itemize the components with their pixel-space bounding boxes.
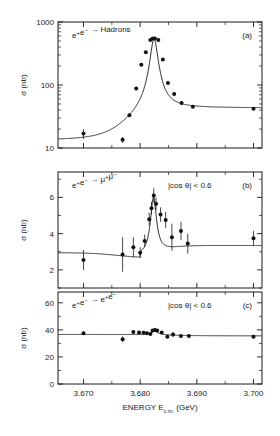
- panel-a-datapoint: [134, 86, 138, 90]
- panel-b-datapoint: [164, 218, 168, 222]
- panel-c-datapoint: [179, 334, 183, 338]
- panel-b-datapoint: [143, 239, 147, 243]
- panel-c-datapoint: [131, 330, 135, 334]
- panel-a-datapoint: [156, 38, 160, 42]
- panel-c-datapoint: [82, 331, 86, 335]
- panel-b-datapoint: [150, 206, 154, 210]
- panel-c-datapoint: [142, 331, 146, 335]
- panel-a-yticklabel: 1000: [36, 18, 54, 27]
- panel-c-cut-label: |cos θ| < 0.6: [168, 301, 212, 310]
- panel-a-datapoint: [166, 81, 170, 85]
- panel-b-datapoint: [186, 242, 190, 246]
- x-tick-label: 3.690: [187, 389, 208, 398]
- panel-b-datapoint: [152, 194, 156, 198]
- panel-b-datapoint: [147, 217, 151, 221]
- panel-b-yticklabel: 4: [50, 230, 55, 239]
- panel-b-datapoint: [82, 258, 86, 262]
- x-tick-label: 3.700: [243, 389, 264, 398]
- panel-a-yticklabel: 100: [41, 81, 55, 90]
- panel-c-datapoint: [187, 334, 191, 338]
- panel-c-ylabel: σ (nb): [19, 327, 28, 349]
- panel-a-ylabel: σ (nb): [19, 74, 28, 96]
- panel-c-datapoint: [145, 331, 149, 335]
- panel-c-yticklabel: 0: [50, 380, 55, 389]
- panel-b-frame: [58, 172, 262, 288]
- panel-c-datapoint: [171, 333, 175, 337]
- panel-b-datapoint: [179, 229, 183, 233]
- panel-c-yticklabel: 40: [45, 326, 54, 335]
- panel-a-datapoint: [172, 92, 176, 96]
- panel-a-fit-curve: [58, 39, 262, 139]
- panel-b-datapoint: [138, 251, 142, 255]
- panel-a-datapoint: [121, 138, 125, 142]
- resonance-scan-figure: 101001000e+e− → Hadrons(a)σ (nb)246e+e− …: [0, 0, 280, 436]
- panel-c-yticklabel: 60: [45, 299, 54, 308]
- panel-b-reaction-label: e+e− → μ+μ−: [72, 171, 117, 190]
- panel-c-datapoint: [160, 331, 164, 335]
- panel-b-cut-label: |cos θ| < 0.6: [168, 181, 212, 190]
- figure-container: 101001000e+e− → Hadrons(a)σ (nb)246e+e− …: [0, 0, 280, 436]
- panel-a-datapoint: [127, 113, 131, 117]
- x-axis-title: ENERGY Ec.m. (GeV): [122, 403, 197, 414]
- x-tick-label: 3.680: [130, 389, 151, 398]
- panel-a-datapoint: [191, 105, 195, 109]
- x-tick-label: 3.670: [73, 389, 94, 398]
- panel-c-datapoint: [137, 331, 141, 335]
- panel-c-yticklabel: 20: [45, 353, 54, 362]
- panel-a-datapoint: [252, 107, 256, 111]
- panel-b-datapoint: [131, 245, 135, 249]
- panel-b-label: (b): [242, 181, 252, 190]
- panel-b-yticklabel: 2: [50, 266, 55, 275]
- panel-c-reaction-label: e+e− → e+e−: [72, 291, 117, 310]
- panel-c-frame: [58, 292, 262, 384]
- panel-c-datapoint: [148, 332, 152, 336]
- panel-a-datapoint: [82, 131, 86, 135]
- panel-c-datapoint: [121, 337, 125, 341]
- panel-a-label: (a): [242, 31, 252, 40]
- panel-c-datapoint: [165, 335, 169, 339]
- panel-b-datapoint: [170, 235, 174, 239]
- panel-c-label: (c): [243, 301, 253, 310]
- panel-b-datapoint: [121, 252, 125, 256]
- panel-b-yticklabel: 6: [50, 193, 55, 202]
- panel-a-reaction-label: e+e− → Hadrons: [72, 25, 131, 40]
- panel-b-datapoint: [252, 236, 256, 240]
- panel-b-datapoint: [154, 202, 158, 206]
- panel-a-datapoint: [180, 101, 184, 105]
- panel-a-datapoint: [161, 57, 165, 61]
- panel-a-datapoint: [144, 50, 148, 54]
- panel-c-datapoint: [252, 335, 256, 339]
- panel-a-datapoint: [139, 63, 143, 67]
- panel-c-datapoint: [155, 329, 159, 333]
- panel-b-ylabel: σ (nb): [19, 219, 28, 241]
- panel-b-datapoint: [159, 213, 163, 217]
- panel-b-fit-curve: [58, 197, 262, 257]
- panel-a-datapoint: [153, 37, 157, 41]
- panel-a-yticklabel: 10: [45, 144, 54, 153]
